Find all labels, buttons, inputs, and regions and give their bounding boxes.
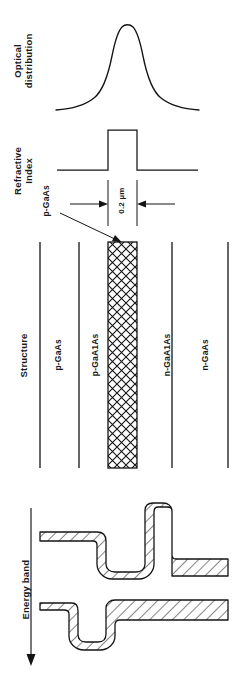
figure-container: Optical distribution Refractive Index 0.… — [0, 0, 245, 676]
valence-band-curve — [40, 600, 228, 650]
structure-layer-label-p-gaas: p-GaAs — [54, 334, 64, 376]
energy-direction-arrowhead — [27, 654, 36, 666]
structure-layer-label-n-gaalas: n-GaA1As — [163, 327, 173, 383]
optical-distribution-plot — [0, 0, 245, 130]
refractive-index-plot — [0, 125, 245, 185]
structure-layer-label-n-gaas: n-GaAs — [201, 334, 211, 376]
callout-leader-line — [60, 213, 117, 240]
structure-active-layer — [108, 242, 137, 468]
conduction-band-curve — [40, 503, 228, 579]
structure-layer-label-p-gaalas: p-GaA1As — [91, 327, 101, 383]
energy-band-diagram — [0, 486, 245, 676]
optical-intensity-curve — [56, 25, 199, 110]
refractive-index-step-curve — [57, 130, 198, 170]
